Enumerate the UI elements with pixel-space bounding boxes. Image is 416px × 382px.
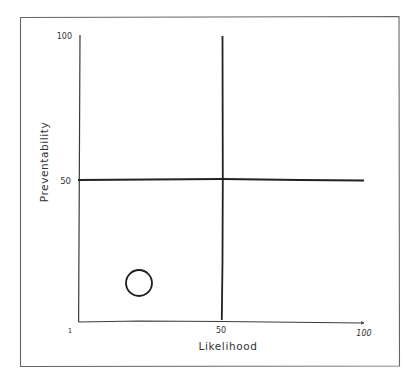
quadrant-line-vertical bbox=[222, 36, 223, 320]
x-tick-label-100: 100 bbox=[356, 329, 371, 338]
data-point-circle bbox=[126, 270, 152, 296]
x-axis-label: Likelihood bbox=[199, 340, 258, 352]
x-tick-label-1: 1 bbox=[68, 327, 72, 335]
y-axis-label: Preventability bbox=[38, 122, 50, 203]
y-tick-label-100: 100 bbox=[57, 32, 72, 41]
risk-quadrant-chart: 100 50 1 50 100 Likelihood Preventabilit… bbox=[0, 0, 416, 382]
y-axis-line bbox=[79, 35, 80, 322]
chart-frame bbox=[21, 17, 400, 367]
y-tick-label-50: 50 bbox=[60, 176, 71, 186]
x-tick-label-50: 50 bbox=[216, 326, 226, 335]
x-axis-line bbox=[79, 321, 363, 323]
quadrant-line-horizontal bbox=[78, 179, 364, 181]
